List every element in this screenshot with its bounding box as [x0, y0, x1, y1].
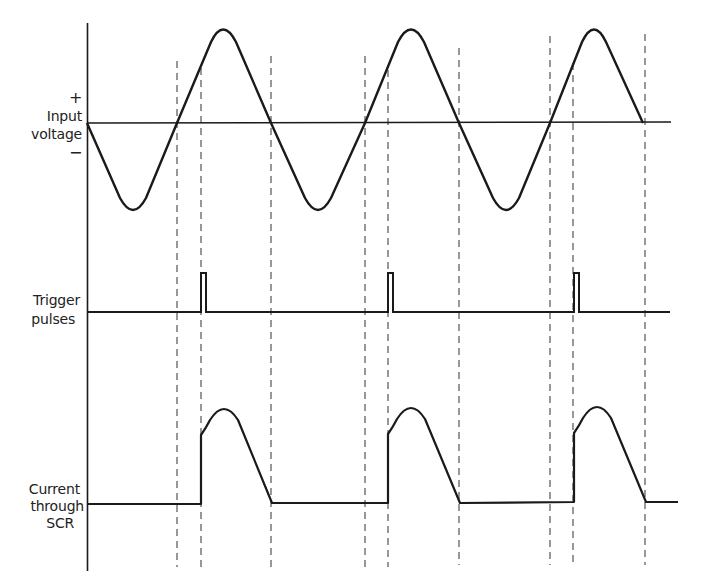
- scr-current-waveform: [87, 407, 678, 504]
- input-voltage-label-line1: Input: [20, 108, 82, 124]
- trigger-pulses-label-line1: Trigger: [10, 292, 80, 308]
- input-voltage-label-line2: voltage: [20, 126, 82, 142]
- input-voltage-zero-line: [87, 122, 671, 123]
- input-plus-sign: +: [69, 90, 82, 106]
- scr-waveform-diagram: [0, 0, 701, 587]
- input-minus-sign: −: [69, 145, 82, 161]
- scr-current-label-line2: through: [10, 498, 84, 514]
- trigger-pulse-waveform: [87, 273, 670, 312]
- trigger-pulses-label-line2: pulses: [10, 311, 75, 327]
- scr-current-label-line1: Current: [10, 481, 80, 497]
- scr-current-label-line3: SCR: [10, 515, 74, 531]
